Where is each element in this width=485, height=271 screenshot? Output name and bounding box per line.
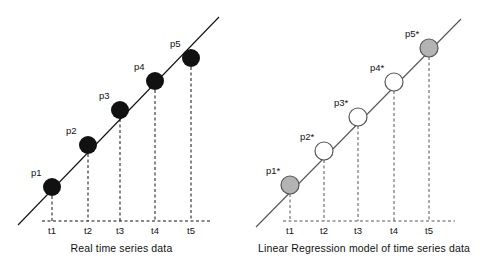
data-point-p2-star (315, 142, 333, 160)
figure-diagram: p1 p2 p3 p4 p5 t1 t2 t3 t4 t5 (0, 0, 485, 271)
tick-label-t4: t4 (151, 225, 159, 236)
data-point-p5-star (420, 39, 438, 57)
data-point-p1-star (281, 176, 299, 194)
data-point-p5 (182, 49, 200, 67)
tick-label-t1: t1 (286, 225, 294, 236)
data-point-p1 (43, 178, 61, 196)
point-label-p3: p3 (99, 90, 110, 101)
point-label-p3-star: p3* (334, 97, 349, 108)
tick-label-t3: t3 (354, 225, 362, 236)
point-label-p5-star: p5* (405, 28, 420, 39)
tick-label-t5: t5 (187, 225, 195, 236)
data-point-p4-star (385, 73, 403, 91)
point-label-p5: p5 (170, 38, 181, 49)
point-label-p1: p1 (31, 167, 42, 178)
panel-linear-regression-model: p1* p2* p3* p4* p5* t1 t2 t3 t4 t5 (243, 0, 485, 271)
tick-label-t4: t4 (390, 225, 398, 236)
tick-label-t3: t3 (116, 225, 124, 236)
data-point-p2 (79, 136, 97, 154)
panel-real-time-series: p1 p2 p3 p4 p5 t1 t2 t3 t4 t5 (0, 0, 243, 271)
point-label-p2: p2 (66, 125, 77, 136)
data-point-p3 (111, 101, 129, 119)
caption-linear-regression-model: Linear Regression model of time series d… (243, 242, 485, 254)
tick-label-t2: t2 (320, 225, 328, 236)
point-label-p4: p4 (134, 61, 145, 72)
tick-label-t1: t1 (48, 225, 56, 236)
point-label-p1-star: p1* (266, 165, 281, 176)
tick-label-t2: t2 (84, 225, 92, 236)
data-point-p3-star (349, 108, 367, 126)
point-label-p2-star: p2* (300, 131, 315, 142)
data-point-p4 (146, 72, 164, 90)
tick-label-t5: t5 (425, 225, 433, 236)
point-label-p4-star: p4* (370, 62, 385, 73)
caption-real-time-series: Real time series data (0, 242, 243, 254)
